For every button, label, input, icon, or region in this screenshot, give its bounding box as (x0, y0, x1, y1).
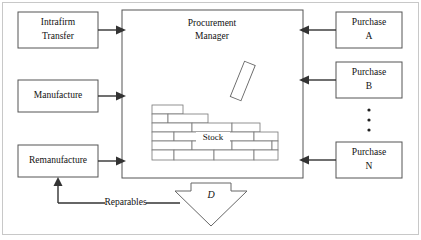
vertical-ellipsis-icon (367, 108, 370, 131)
reparables-label: Reparables (104, 197, 147, 207)
purchase-b-label-line1: Purchase (352, 67, 386, 77)
intrafirm-transfer-label-line2: Transfer (42, 31, 75, 41)
purchase-a-label-line2: A (366, 31, 373, 41)
procurement-flow-diagram: Procurement Manager (0, 0, 421, 240)
demand-label: D (206, 189, 215, 200)
procurement-manager-label-line1: Procurement (188, 18, 237, 28)
purchase-b-label-line2: B (366, 81, 372, 91)
arrow-purchase-b-to-manager (299, 76, 336, 85)
remanufacture-label-line1: Remanufacture (29, 155, 87, 165)
procurement-manager-label-line2: Manager (195, 31, 230, 41)
purchase-a-label-line1: Purchase (352, 17, 386, 27)
arrow-purchase-n-to-manager (299, 156, 336, 165)
purchase-n-label-line1: Purchase (352, 147, 386, 157)
purchase-n-label-line2: N (366, 161, 373, 171)
manufacture-label-line1: Manufacture (34, 90, 83, 100)
arrow-purchase-a-to-manager (299, 26, 336, 35)
intrafirm-transfer-label-line1: Intrafirm (41, 17, 76, 27)
stock-label: Stock (203, 132, 224, 142)
